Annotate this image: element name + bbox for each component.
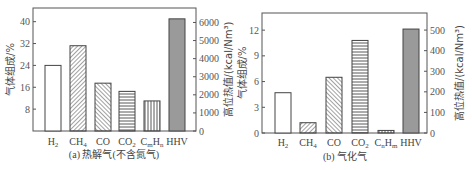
bar-ch4 <box>70 46 86 131</box>
y-tick-label: 8 <box>25 104 30 115</box>
y-tick-label: 9 <box>254 50 259 61</box>
chart-a-pyrolysis-gas: 8162432400100020003000400050006000H2CH4C… <box>4 8 234 161</box>
x-category-label: CO2 <box>118 136 136 149</box>
y-right-tick-label: 2000 <box>199 89 219 100</box>
x-category-label: H2 <box>278 137 289 150</box>
bar-co <box>326 77 342 133</box>
y-right-tick-label: 0 <box>199 126 204 137</box>
bar-cmhn <box>144 101 160 131</box>
y-tick-label: 32 <box>20 38 30 49</box>
bar-cmhn <box>378 130 394 133</box>
y-right-tick-label: 3000 <box>199 71 219 82</box>
y-axis-label: 气体组成/% <box>4 43 16 96</box>
x-category-label: H2 <box>48 136 59 149</box>
x-category-label: HHV <box>400 137 422 148</box>
x-category-label: CmHn <box>141 136 164 149</box>
y-right-tick-label: 200 <box>430 86 445 97</box>
chart-caption: (a) 热解气(不含氮气) <box>69 148 159 161</box>
y-right-tick-label: 300 <box>430 66 445 77</box>
x-category-label: CnHm <box>375 137 398 150</box>
x-category-label: CO <box>327 137 341 148</box>
y-right-tick-label: 4000 <box>199 53 219 64</box>
y-right-tick-label: 5000 <box>199 35 219 46</box>
y-tick-label: 40 <box>20 16 30 27</box>
chart-caption: (b) 气化气 <box>323 150 367 163</box>
y-tick-label: 24 <box>20 60 30 71</box>
y-tick-label: 16 <box>20 82 30 93</box>
x-category-label: CH4 <box>299 137 317 150</box>
bar-h2 <box>275 93 291 133</box>
y-tick-label: 0 <box>254 128 259 139</box>
y-right-tick-label: 500 <box>430 25 445 36</box>
x-category-label: CH4 <box>69 136 87 149</box>
bar-co2 <box>119 91 135 131</box>
y-axis-label: 气体组成/% <box>236 47 248 100</box>
bar-hhv <box>403 29 419 133</box>
y-right-tick-label: 1000 <box>199 107 219 118</box>
bar-co2 <box>352 40 368 133</box>
y-right-tick-label: 6000 <box>199 17 219 28</box>
y-right-tick-label: 0 <box>430 128 435 139</box>
bar-co <box>95 83 111 131</box>
bar-ch4 <box>300 123 316 133</box>
x-category-label: CO2 <box>351 137 369 150</box>
y-right-axis-label: 高位热值/(kcal/Nm³) <box>453 25 465 121</box>
y-tick-label: 3 <box>254 102 259 113</box>
y-tick-label: 6 <box>254 76 259 87</box>
y-right-tick-label: 100 <box>430 107 445 118</box>
x-category-label: HHV <box>166 136 188 147</box>
y-tick-label: 12 <box>249 25 259 36</box>
bar-h2 <box>45 65 61 131</box>
bar-hhv <box>169 19 185 131</box>
y-right-axis-label: 高位热值/(kcal/Nm³) <box>222 21 234 117</box>
chart-b-gasification-gas: 0369120100200300400500H2CH4COCO2CnHmHHV(… <box>236 13 465 163</box>
chart-canvas: 8162432400100020003000400050006000H2CH4C… <box>0 0 472 170</box>
y-right-tick-label: 400 <box>430 45 445 56</box>
x-category-label: CO <box>96 136 110 147</box>
